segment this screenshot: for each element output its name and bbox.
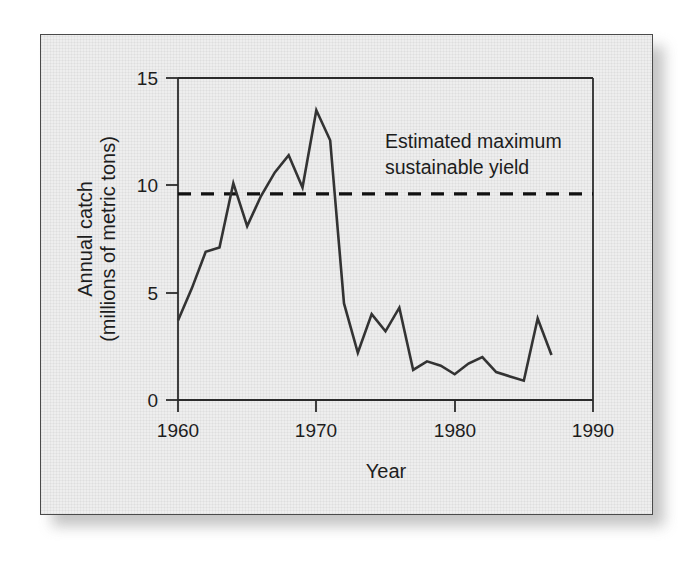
y-tick-label-5: 5 (147, 283, 158, 304)
msy-annotation-line2: sustainable yield (385, 156, 529, 178)
x-tick-label-1960: 1960 (157, 420, 199, 441)
x-tick-label-1990: 1990 (572, 420, 614, 441)
x-axis-title: Year (366, 460, 407, 482)
y-axis-ticks (166, 78, 178, 400)
y-tick-label-10: 10 (137, 175, 158, 196)
y-tick-labels: 15 10 5 0 (137, 68, 158, 411)
x-tick-label-1970: 1970 (295, 420, 337, 441)
line-chart: 15 10 5 0 1960 1970 1980 1990 Year Annua… (0, 0, 700, 562)
x-tick-labels: 1960 1970 1980 1990 (157, 420, 614, 441)
y-tick-label-0: 0 (147, 390, 158, 411)
x-tick-label-1980: 1980 (434, 420, 476, 441)
x-axis-ticks (178, 400, 593, 412)
msy-annotation-line1: Estimated maximum (385, 130, 562, 152)
y-axis-title-line2: (millions of metric tons) (97, 136, 119, 342)
figure-root: 15 10 5 0 1960 1970 1980 1990 Year Annua… (0, 0, 700, 562)
y-tick-label-15: 15 (137, 68, 158, 89)
y-axis-title-line1: Annual catch (74, 181, 96, 297)
